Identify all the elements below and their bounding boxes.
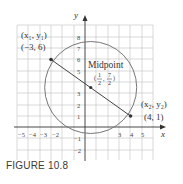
figure-caption: FIGURE 10.8: [6, 160, 68, 171]
midpoint-dot: [89, 86, 92, 89]
svg-text:5: 5: [141, 131, 144, 138]
svg-text:6: 6: [77, 56, 81, 63]
point1-name: (x₁, y₁): [21, 30, 47, 40]
coordinate-plane: −5−4−3−2 345 8765 321 −1−2 x y (x₁, y₁) …: [0, 0, 183, 184]
svg-text:8: 8: [77, 34, 80, 41]
svg-text:1: 1: [98, 72, 101, 78]
point1-coords: (−3, 6): [21, 42, 46, 52]
svg-text:,: ,: [103, 76, 105, 82]
svg-text:−3: −3: [40, 131, 47, 138]
y-tick-labels: 8765 321 −1−2: [74, 34, 81, 154]
svg-text:−4: −4: [29, 131, 37, 138]
svg-text:4: 4: [130, 131, 134, 138]
y-axis-arrow-icon: [83, 15, 88, 21]
x-axis-label: x: [160, 129, 165, 139]
point-2: [129, 114, 133, 118]
point2-coords: (4, 1): [144, 112, 164, 122]
svg-text:7: 7: [108, 72, 111, 78]
svg-text:5: 5: [77, 68, 80, 75]
point-1: [49, 58, 53, 62]
midpoint-label: Midpoint: [88, 60, 124, 70]
svg-text:7: 7: [77, 45, 81, 52]
y-axis-label: y: [73, 10, 78, 20]
svg-text:−5: −5: [18, 131, 25, 138]
svg-text:2: 2: [98, 80, 101, 86]
svg-text:−1: −1: [74, 135, 81, 142]
svg-text:−2: −2: [52, 131, 59, 138]
svg-text:3: 3: [77, 90, 80, 97]
svg-text:2: 2: [77, 102, 80, 109]
svg-text:(: (: [94, 75, 96, 82]
svg-text:2: 2: [108, 80, 111, 86]
svg-text:−2: −2: [74, 147, 81, 154]
svg-text:1: 1: [77, 113, 80, 120]
point2-name: (x₂, y₂): [141, 99, 167, 109]
svg-text:3: 3: [118, 131, 121, 138]
svg-text:): ): [113, 75, 115, 82]
midpoint-coords: ( 1 2 , 7 2 ): [94, 72, 115, 86]
